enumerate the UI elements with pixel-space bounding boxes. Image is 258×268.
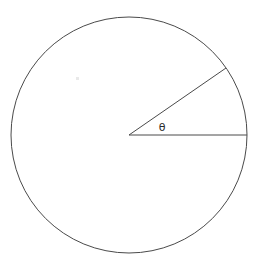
figure-canvas: θ [0, 0, 258, 268]
faint-speck-artifact [76, 77, 79, 80]
circle-angle-diagram: θ [0, 0, 258, 268]
diagram-background [0, 0, 258, 268]
theta-label: θ [159, 121, 166, 134]
